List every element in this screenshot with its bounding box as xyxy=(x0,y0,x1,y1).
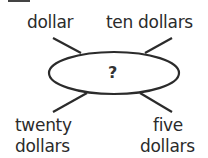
spoke-label-top-right: ten dollars xyxy=(106,12,193,32)
spoke-line-top-left xyxy=(53,38,81,53)
spoke-label-bottom-right-line1: five xyxy=(153,115,183,135)
spoke-label-bottom-left-line2: dollars xyxy=(15,136,70,156)
concept-web-diagram: ? dollar ten dollars twenty dollars five… xyxy=(0,0,208,158)
spoke-label-top-left: dollar xyxy=(27,12,73,32)
spoke-label-bottom-right-line2: dollars xyxy=(140,136,195,156)
center-question-mark: ? xyxy=(108,64,117,82)
spoke-line-top-right xyxy=(145,38,172,53)
spoke-line-bottom-left xyxy=(53,93,87,112)
spoke-line-bottom-right xyxy=(140,93,172,112)
spoke-label-bottom-left-line1: twenty xyxy=(15,115,72,135)
